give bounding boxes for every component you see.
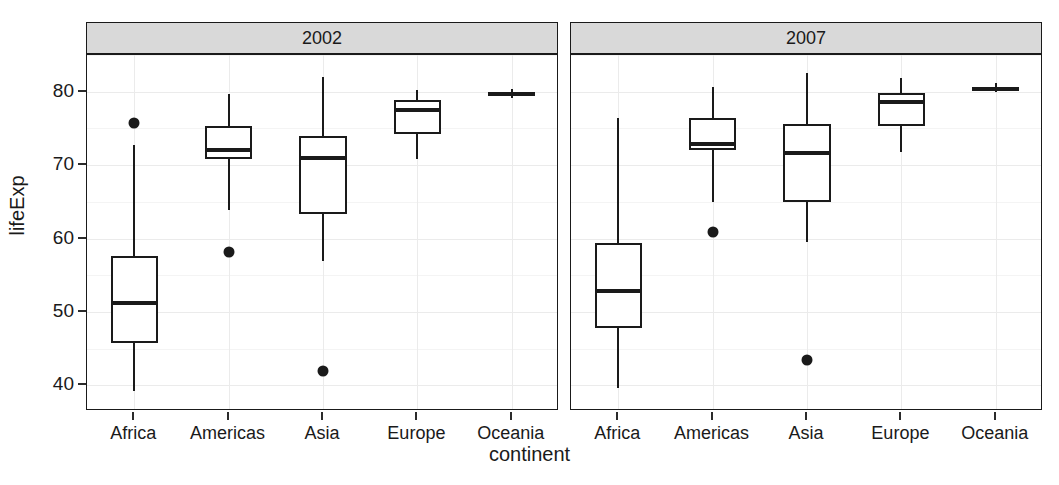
whisker-lower (617, 328, 619, 388)
box-iqr (111, 256, 158, 343)
x-tick-mark (805, 412, 807, 420)
y-axis-title: lifeExp (0, 0, 34, 410)
x-tick-label-asia: Asia (788, 423, 823, 444)
y-tick-label: 60 (53, 227, 74, 249)
y-axis: 4050607080 (34, 0, 86, 410)
median-line (972, 87, 1019, 91)
y-tick-label: 80 (53, 80, 74, 102)
box-iqr (394, 100, 441, 134)
x-tick-label-africa: Africa (594, 423, 640, 444)
x-tick-label-americas: Americas (190, 423, 265, 444)
boxplot-americas (689, 55, 736, 409)
x-tick-label-oceania: Oceania (477, 423, 544, 444)
boxplot-africa (111, 55, 158, 409)
x-tick-label-europe: Europe (871, 423, 929, 444)
y-tick-label: 70 (53, 153, 74, 175)
x-tick-mark (510, 412, 512, 420)
median-line (488, 92, 535, 96)
facet-panel: 2002 (86, 22, 558, 410)
x-tick-label-asia: Asia (304, 423, 339, 444)
whisker-lower (712, 150, 714, 202)
outlier-point (223, 246, 234, 257)
whisker-upper (900, 78, 902, 93)
x-tick-mark (994, 412, 996, 420)
median-line (299, 156, 346, 160)
x-tick-mark (899, 412, 901, 420)
whisker-lower (322, 214, 324, 262)
median-line (111, 301, 158, 305)
outlier-point (801, 354, 812, 365)
box-iqr (205, 126, 252, 159)
whisker-upper (617, 118, 619, 243)
y-tick-label: 40 (53, 373, 74, 395)
whisker-upper (133, 145, 135, 257)
x-tick-mark (711, 412, 713, 420)
boxplot-europe (878, 55, 925, 409)
x-axis: AfricaAmericasAsiaEuropeOceania (86, 412, 558, 452)
facet-strip-label: 2007 (570, 22, 1042, 54)
facet-panel: 2007 (570, 22, 1042, 410)
boxplot-europe (394, 55, 441, 409)
median-line (394, 108, 441, 112)
median-line (595, 289, 642, 293)
outlier-point (129, 118, 140, 129)
boxplot-oceania (972, 55, 1019, 409)
x-tick-mark (616, 412, 618, 420)
whisker-upper (228, 94, 230, 126)
boxplot-figure: lifeExp 4050607080 20022007 continent Af… (0, 0, 1059, 485)
boxplot-asia (783, 55, 830, 409)
whisker-upper (416, 90, 418, 100)
box-iqr (299, 136, 346, 214)
median-line (878, 100, 925, 104)
median-line (689, 142, 736, 146)
x-tick-mark (132, 412, 134, 420)
whisker-lower (511, 96, 513, 98)
box-iqr (595, 243, 642, 328)
x-tick-mark (321, 412, 323, 420)
boxplot-americas (205, 55, 252, 409)
whisker-lower (228, 159, 230, 210)
y-tick-mark (78, 310, 86, 312)
x-tick-label-oceania: Oceania (961, 423, 1028, 444)
median-line (205, 148, 252, 152)
whisker-lower (806, 202, 808, 242)
whisker-lower (133, 343, 135, 391)
facet-strip-label: 2002 (86, 22, 558, 54)
x-tick-label-europe: Europe (387, 423, 445, 444)
median-line (783, 151, 830, 155)
x-tick-mark (227, 412, 229, 420)
whisker-upper (806, 73, 808, 124)
y-tick-label: 50 (53, 300, 74, 322)
x-axis: AfricaAmericasAsiaEuropeOceania (570, 412, 1042, 452)
panel-plot-area (86, 54, 558, 410)
y-axis-title-text: lifeExp (6, 175, 29, 235)
box-iqr (878, 93, 925, 126)
y-tick-mark (78, 163, 86, 165)
x-tick-label-africa: Africa (110, 423, 156, 444)
boxplot-oceania (488, 55, 535, 409)
whisker-upper (712, 87, 714, 119)
x-tick-label-americas: Americas (674, 423, 749, 444)
whisker-lower (900, 126, 902, 152)
boxplot-asia (299, 55, 346, 409)
outlier-point (317, 365, 328, 376)
whisker-upper (322, 77, 324, 136)
x-tick-mark (415, 412, 417, 420)
y-tick-mark (78, 90, 86, 92)
y-tick-mark (78, 237, 86, 239)
box-iqr (783, 124, 830, 202)
boxplot-africa (595, 55, 642, 409)
outlier-point (707, 226, 718, 237)
whisker-lower (416, 134, 418, 159)
y-tick-mark (78, 383, 86, 385)
panel-plot-area (570, 54, 1042, 410)
